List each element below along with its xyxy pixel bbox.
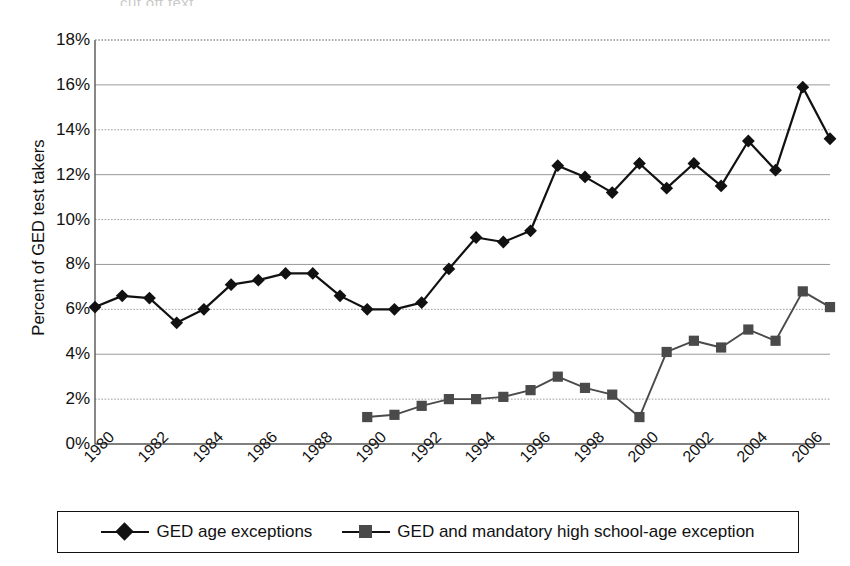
x-axis-tick-label: 1994 (462, 429, 498, 465)
square-marker-icon (342, 524, 390, 540)
x-axis-tick-label: 2002 (680, 429, 716, 465)
x-axis-tick-label: 1996 (517, 429, 553, 465)
diamond-marker-icon (101, 524, 149, 540)
legend-item-ged-and-mandatory-high-school-age-exception[interactable]: GED and mandatory high school-age except… (342, 522, 754, 542)
chart-figure: cut off text Percent of GED test takers … (0, 0, 850, 566)
x-axis-tick-label: 1986 (244, 429, 280, 465)
x-axis-tick-label: 1990 (353, 429, 389, 465)
x-axis-tick-label: 2004 (734, 429, 770, 465)
x-axis-tick-label: 1984 (190, 429, 226, 465)
x-axis-tick-label: 1998 (571, 429, 607, 465)
x-axis-tick-label: 1988 (299, 429, 335, 465)
x-axis-tick-label: 1980 (81, 429, 117, 465)
x-axis-tick-label: 2006 (789, 429, 825, 465)
x-axis-tick-label: 1982 (135, 429, 171, 465)
legend-label: GED age exceptions (156, 522, 312, 542)
legend-label: GED and mandatory high school-age except… (397, 522, 754, 542)
x-axis-tick-label: 1992 (408, 429, 444, 465)
x-axis-tick-labels: 1980198219841986198819901992199419961998… (0, 0, 850, 500)
chart-legend: GED age exceptions GED and mandatory hig… (57, 511, 799, 553)
legend-item-ged-age-exceptions[interactable]: GED age exceptions (101, 522, 312, 542)
x-axis-tick-label: 2000 (625, 429, 661, 465)
plot-area-wrapper: Percent of GED test takers 0%2%4%6%8%10%… (0, 0, 850, 500)
